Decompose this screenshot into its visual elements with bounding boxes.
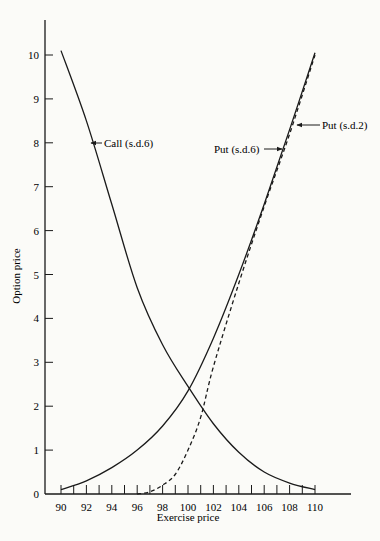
y-tick-label: 7	[34, 181, 40, 193]
x-tick-label: 110	[307, 501, 324, 513]
y-tick-label: 0	[34, 488, 40, 500]
y-tick-label: 6	[34, 225, 40, 237]
y-tick-label: 2	[34, 400, 40, 412]
y-tick-label: 8	[34, 137, 40, 149]
y-tick-label: 4	[34, 312, 40, 324]
x-tick-label: 96	[132, 501, 144, 513]
curves	[61, 51, 315, 494]
option-price-chart: 0123456789109092949698100102104106108110…	[0, 0, 380, 541]
y-tick-label: 10	[28, 49, 40, 61]
x-axis-title: Exercise price	[157, 511, 220, 523]
x-tick-label: 92	[81, 501, 92, 513]
y-axis-title: Option price	[10, 248, 22, 303]
y-tick-label: 5	[34, 269, 40, 281]
call-sd6-curve	[61, 51, 315, 490]
put-sd6-label: Put (s.d.6)	[214, 143, 260, 156]
x-tick-label: 90	[56, 501, 68, 513]
x-tick-label: 104	[231, 501, 248, 513]
x-tick-label: 106	[256, 501, 273, 513]
y-tick-label: 3	[34, 356, 40, 368]
put-sd2-curve	[137, 55, 315, 494]
y-tick-label: 9	[34, 93, 40, 105]
call-label: Call (s.d.6)	[104, 137, 154, 150]
y-tick-label: 1	[34, 444, 40, 456]
x-tick-label: 108	[281, 501, 298, 513]
put-sd6-curve	[61, 53, 315, 490]
put-sd2-label: Put (s.d.2)	[322, 119, 368, 132]
annotations: Call (s.d.6)Put (s.d.6)Put (s.d.2)	[91, 119, 368, 156]
x-tick-label: 94	[106, 501, 118, 513]
